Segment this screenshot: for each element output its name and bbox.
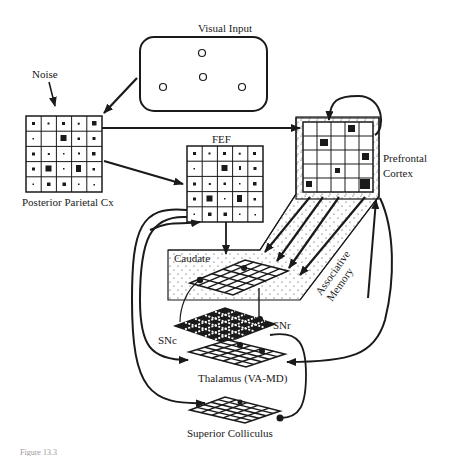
caudate-label: Caudate <box>174 252 210 264</box>
snc-label: SNc <box>158 334 177 346</box>
snc-snr-grid <box>175 308 275 343</box>
prefrontal-label-line2: Cortex <box>383 167 413 179</box>
prefrontal-label-line1: Prefrontal <box>383 152 427 164</box>
stimulus-dot-icon <box>200 74 207 81</box>
thalamus-label: Thalamus (VA-MD) <box>198 372 288 385</box>
basal-ganglia-diagram: Visual Input Noise Posterior Parietal Cx <box>0 0 454 456</box>
superior-colliculus-label: Superior Colliculus <box>187 427 273 439</box>
posterior-parietal-label: Posterior Parietal Cx <box>22 196 114 208</box>
stimulus-dot-icon <box>199 50 206 57</box>
stimulus-dot-icon <box>160 84 167 91</box>
snr-label: SNr <box>273 319 291 331</box>
figure-caption: Figure 13.3 <box>20 448 57 456</box>
thalamus-grid <box>189 340 285 367</box>
fef-label: FEF <box>212 133 231 145</box>
stimulus-dot-icon <box>239 84 246 91</box>
visual-input-box: Visual Input <box>140 22 267 111</box>
fef-feedback-loops <box>132 209 205 403</box>
visual-input-label: Visual Input <box>198 22 252 34</box>
fef-grid <box>187 146 263 222</box>
posterior-parietal-grid <box>26 116 102 192</box>
superior-colliculus-grid <box>190 397 280 423</box>
noise-label: Noise <box>32 68 58 80</box>
prefrontal-cortex-grid <box>296 117 379 199</box>
